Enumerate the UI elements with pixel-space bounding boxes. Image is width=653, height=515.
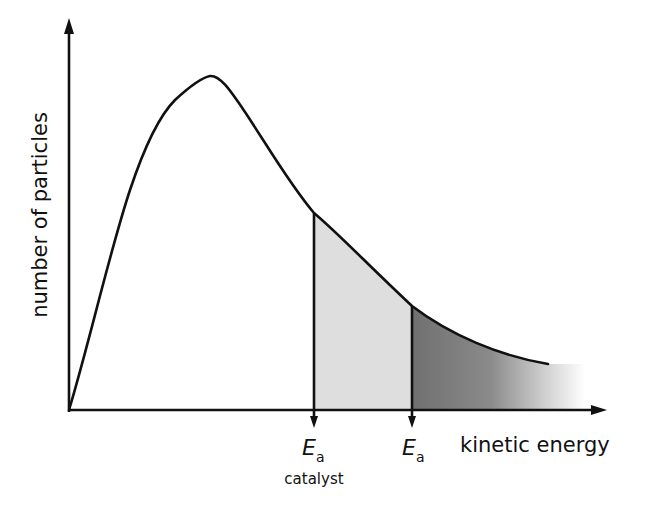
x-axis-label: kinetic energy bbox=[460, 433, 610, 457]
ea-subscript: a bbox=[416, 449, 425, 465]
x-axis-arrow-icon bbox=[591, 405, 607, 415]
ea-arrow-icon bbox=[408, 416, 416, 428]
maxwell-boltzmann-chart: number of particles kinetic energy E a c… bbox=[0, 0, 653, 515]
catalyst-extra-area bbox=[314, 213, 412, 410]
ea-catalyst-caption: catalyst bbox=[284, 470, 343, 488]
ea-symbol: E bbox=[402, 435, 416, 460]
above-activation-energy-area bbox=[412, 306, 586, 410]
y-axis-arrow-icon bbox=[64, 18, 74, 34]
ea-catalyst-subscript: a bbox=[316, 449, 325, 465]
ea-catalyst-arrow-icon bbox=[310, 416, 318, 428]
ea-catalyst-symbol: E bbox=[302, 435, 316, 460]
y-axis-label: number of particles bbox=[28, 112, 52, 318]
